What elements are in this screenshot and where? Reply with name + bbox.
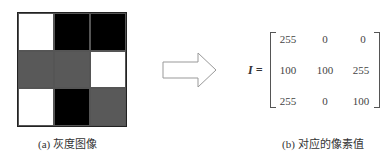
pixel-cell [90,13,126,51]
pixel-cell [90,51,126,89]
pixel-value-matrix: 255 0 0 100 100 255 255 0 100 [270,28,380,110]
pixel-cell [54,88,90,126]
matrix-value: 255 [273,95,303,107]
matrix-value: 100 [346,95,376,107]
grayscale-image-grid [17,12,127,127]
matrix-value: 0 [310,33,340,45]
pixel-cell [18,88,54,126]
matrix-value: 0 [348,33,378,45]
matrix-value: 255 [346,64,376,76]
matrix-value: 100 [273,64,303,76]
caption-pixel-values: (b) 对应的像素值 [282,135,364,151]
matrix-value: 255 [273,33,303,45]
caption-grayscale-image: (a) 灰度图像 [38,135,97,151]
pixel-cell [54,51,90,89]
pixel-cell [54,13,90,51]
matrix-label: I = [248,63,263,78]
pixel-cell [18,13,54,51]
pixel-cell [90,88,126,126]
right-arrow-icon [162,52,218,88]
pixel-cell [18,51,54,89]
matrix-value: 0 [310,95,340,107]
matrix-value: 100 [310,64,340,76]
